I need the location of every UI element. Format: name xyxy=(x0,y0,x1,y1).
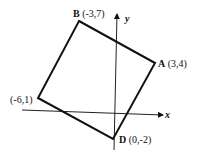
coordinate-diagram: y x B (-3,7) A (3,4) (-6,1) D (0,-2) xyxy=(0,0,197,155)
vertex-a-label: A (3,4) xyxy=(158,58,187,70)
vertex-c-label: (-6,1) xyxy=(10,94,33,106)
y-axis-label: y xyxy=(124,13,130,24)
square-abcd xyxy=(38,21,155,139)
x-axis xyxy=(22,110,163,115)
vertex-b-label: B (-3,7) xyxy=(73,8,105,20)
y-axis xyxy=(114,14,117,150)
x-axis-label: x xyxy=(164,109,170,120)
vertex-d-label: D (0,-2) xyxy=(119,134,151,146)
